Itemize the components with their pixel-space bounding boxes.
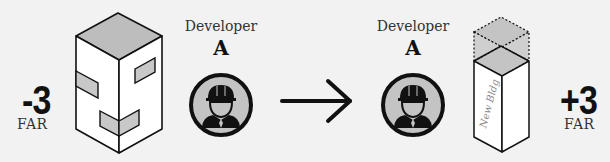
new-building-icon bbox=[0, 0, 610, 162]
far-change-right: +3 bbox=[560, 80, 597, 120]
far-label-right: FAR bbox=[564, 116, 595, 132]
